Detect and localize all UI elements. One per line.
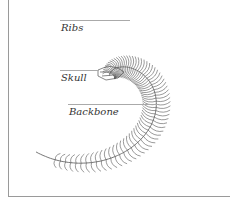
snake-skeleton-illustration <box>0 0 230 199</box>
backbone-label: Backbone <box>69 107 119 117</box>
backbone-leader-line <box>68 104 158 105</box>
skull-label: Skull <box>61 73 87 83</box>
ribs-label: Ribs <box>61 23 83 33</box>
ribs-leader-line <box>60 20 130 21</box>
skull-leader-line <box>60 70 98 71</box>
